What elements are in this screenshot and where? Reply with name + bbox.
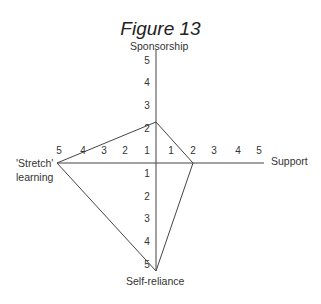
tick-bottom-3: 3 (141, 213, 153, 224)
tick-bottom-2: 2 (141, 191, 153, 202)
tick-bottom-4: 4 (141, 236, 153, 247)
axis-label-stretch: 'Stretch' (16, 157, 53, 169)
axis-label-support: Support (271, 155, 308, 167)
tick-top-3: 3 (141, 100, 153, 111)
tick-left-2: 2 (119, 145, 131, 156)
tick-right-4: 4 (232, 145, 244, 156)
tick-left-1: 1 (141, 145, 153, 156)
tick-right-3: 3 (208, 145, 220, 156)
tick-right-5: 5 (253, 145, 265, 156)
tick-bottom-1: 1 (141, 168, 153, 179)
axis-label-learning: learning (16, 171, 53, 183)
tick-top-4: 4 (141, 77, 153, 88)
tick-left-4: 4 (77, 145, 89, 156)
axis-label-sponsorship: Sponsorship (130, 40, 188, 52)
tick-right-2: 2 (187, 145, 199, 156)
tick-right-1: 1 (165, 145, 177, 156)
tick-left-3: 3 (98, 145, 110, 156)
axis-label-self-reliance: Self-reliance (126, 275, 184, 287)
tick-top-5: 5 (141, 55, 153, 66)
tick-left-5: 5 (53, 145, 65, 156)
tick-bottom-5: 5 (141, 259, 153, 270)
tick-top-2: 2 (141, 123, 153, 134)
